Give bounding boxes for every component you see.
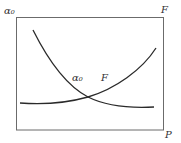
- force-curve: [20, 48, 156, 104]
- bottom-axis-label: P: [165, 130, 172, 140]
- diagram-canvas: [0, 0, 181, 143]
- left-axis-label: α₀: [4, 6, 15, 16]
- force-curve-label: F: [101, 73, 108, 83]
- right-axis-label: F: [161, 5, 168, 15]
- alpha0-curve-label: α₀: [72, 73, 83, 83]
- plot-frame: [17, 18, 164, 131]
